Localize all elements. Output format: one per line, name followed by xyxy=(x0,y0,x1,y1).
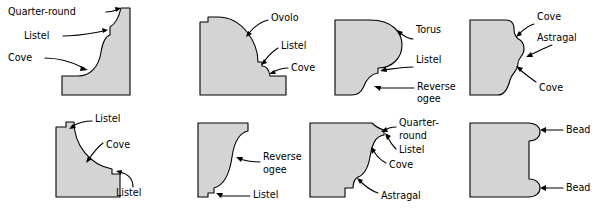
label-quarter-round-1: Quarter-round xyxy=(8,6,76,17)
profile-bead-bead: Bead Bead xyxy=(450,105,600,209)
leader-cove-bottom-4 xyxy=(519,69,536,82)
label-reverse-ogee-3-line2: ogee xyxy=(417,93,441,104)
label-torus-3: Torus xyxy=(415,24,441,35)
leader-cove-top-4 xyxy=(519,24,534,34)
leader-listel-1 xyxy=(63,31,105,36)
label-quarter-round-7-line2: round xyxy=(399,130,427,141)
profile-reverse-ogee-listel: Reverse ogee Listel xyxy=(150,105,300,209)
leader-listel-2 xyxy=(264,48,278,62)
leader-arrow-astragal-4 xyxy=(526,52,533,57)
leader-arrow-cove-1 xyxy=(80,66,88,71)
label-astragal-7: Astragal xyxy=(381,190,421,201)
profile-8-svg: Bead Bead xyxy=(450,105,600,209)
leader-arrow-listel-7 xyxy=(385,133,391,140)
label-listel-top-5: Listel xyxy=(95,113,120,124)
label-listel-6: Listel xyxy=(253,189,278,200)
label-listel-7: Listel xyxy=(399,144,424,155)
leader-ovolo-2 xyxy=(249,20,268,33)
profile-3-svg: Torus Listel Reverse ogee xyxy=(300,0,450,105)
label-bead-bottom-8: Bead xyxy=(566,182,590,193)
label-listel-1: Listel xyxy=(24,30,49,41)
label-reverse-ogee-6-line1: Reverse xyxy=(263,151,302,162)
leader-cove-2 xyxy=(273,68,288,72)
profile-6-svg: Reverse ogee Listel xyxy=(150,105,300,209)
moulding-profiles-figure: Quarter-round Listel Cove Ovolo Listel xyxy=(0,0,600,209)
moulding-outline-7 xyxy=(310,123,384,197)
profile-1-svg: Quarter-round Listel Cove xyxy=(0,0,150,105)
moulding-outline-2 xyxy=(200,17,286,95)
moulding-outline-3 xyxy=(335,20,402,95)
moulding-outline-4 xyxy=(470,20,524,95)
leader-arrow-listel-1 xyxy=(102,28,108,33)
leader-arrow-bead-top-8 xyxy=(540,127,546,133)
profile-4-svg: Cove Astragal Cove xyxy=(450,0,600,105)
label-cove-7: Cove xyxy=(389,159,413,170)
leader-cove-5 xyxy=(89,143,103,159)
profile-listel-cove-listel: Listel Cove Listel xyxy=(0,105,150,209)
leader-listel-3 xyxy=(384,67,413,70)
leader-cove-7 xyxy=(373,150,386,163)
leader-astragal-4 xyxy=(530,45,552,55)
moulding-outline-8 xyxy=(470,123,540,197)
leader-listel-top-5 xyxy=(73,121,92,126)
profile-quarter-round-listel-cove: Quarter-round Listel Cove xyxy=(0,0,150,105)
label-bead-top-8: Bead xyxy=(566,124,590,135)
profile-ovolo-listel-cove: Ovolo Listel Cove xyxy=(150,0,300,105)
label-reverse-ogee-6-line2: ogee xyxy=(263,164,287,175)
leader-arrow-reverse-ogee-6 xyxy=(236,157,243,162)
label-cove-1: Cove xyxy=(8,52,32,63)
profile-2-svg: Ovolo Listel Cove xyxy=(150,0,300,105)
label-cove-5: Cove xyxy=(106,139,130,150)
leader-arrow-reverse-ogee-3 xyxy=(374,86,381,91)
profile-7-svg: Quarter- round Listel Cove Astragal xyxy=(300,105,450,209)
leader-astragal-7 xyxy=(360,181,378,193)
label-astragal-4: Astragal xyxy=(537,32,577,43)
leader-listel-bottom-5 xyxy=(120,172,133,187)
label-quarter-round-7-line1: Quarter- xyxy=(399,117,439,128)
profile-cove-astragal-cove: Cove Astragal Cove xyxy=(450,0,600,105)
profile-torus-listel-reverse-ogee: Torus Listel Reverse ogee xyxy=(300,0,450,105)
leader-arrow-bead-bottom-8 xyxy=(540,185,546,191)
leader-arrow-listel-6 xyxy=(216,193,223,198)
leader-reverse-ogee-6 xyxy=(240,159,260,162)
leader-torus-3 xyxy=(400,33,413,39)
leader-cove-1 xyxy=(45,58,84,68)
label-listel-3: Listel xyxy=(416,54,441,65)
profile-5-svg: Listel Cove Listel xyxy=(0,105,150,209)
profile-quarter-round-listel-cove-astragal: Quarter- round Listel Cove Astragal xyxy=(300,105,450,209)
label-listel-bottom-5: Listel xyxy=(116,187,141,198)
moulding-outline-1 xyxy=(62,8,130,95)
label-cove-top-4: Cove xyxy=(537,11,561,22)
label-cove-bottom-4: Cove xyxy=(539,82,563,93)
label-ovolo-2: Ovolo xyxy=(271,12,299,23)
